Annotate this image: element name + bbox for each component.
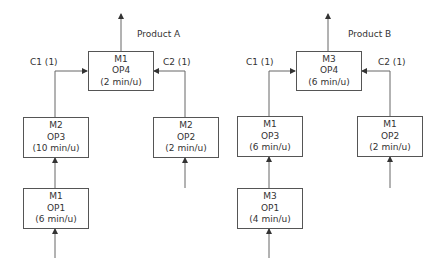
time: (6 min/u) — [35, 214, 76, 226]
product-a-op1-box: M1 OP1 (6 min/u) — [23, 188, 89, 229]
machine: M2 — [179, 120, 193, 132]
operation: OP4 — [112, 65, 130, 77]
operation: OP1 — [261, 203, 279, 215]
product-b-op2-box: M1 OP2 (2 min/u) — [357, 116, 423, 157]
machine: M3 — [263, 191, 277, 203]
time: (6 min/u) — [308, 77, 349, 89]
product-a-op2-box: M2 OP2 (2 min/u) — [153, 117, 219, 158]
time: (10 min/u) — [32, 143, 79, 155]
product-b-op3-box: M1 OP3 (6 min/u) — [237, 116, 303, 157]
operation: OP2 — [381, 131, 399, 143]
product-a-label: Product A — [137, 29, 180, 39]
product-b-c2-label: C2 (1) — [378, 57, 406, 67]
operation: OP4 — [320, 65, 338, 77]
time: (4 min/u) — [249, 214, 290, 226]
operation: OP2 — [177, 132, 195, 144]
time: (2 min/u) — [100, 77, 141, 89]
product-b-op1-box: M3 OP1 (4 min/u) — [237, 188, 303, 229]
machine: M1 — [114, 54, 128, 66]
time: (6 min/u) — [249, 142, 290, 154]
product-a-c1-label: C1 (1) — [30, 57, 58, 67]
time: (2 min/u) — [165, 143, 206, 155]
product-b-c1-arrow — [269, 71, 295, 116]
machine: M2 — [49, 120, 63, 132]
machine: M1 — [263, 119, 277, 131]
operation: OP3 — [261, 131, 279, 143]
product-a-op3-box: M2 OP3 (10 min/u) — [23, 117, 89, 158]
product-b-c1-label: C1 (1) — [246, 57, 274, 67]
product-a-c1-arrow — [55, 71, 87, 117]
machine: M3 — [322, 54, 336, 66]
product-b-c2-arrow — [362, 71, 390, 116]
machine: M1 — [383, 119, 397, 131]
product-a-c2-arrow — [154, 71, 185, 117]
product-b-op4-box: M3 OP4 (6 min/u) — [296, 51, 362, 91]
product-b-label: Product B — [348, 29, 391, 39]
machine: M1 — [49, 191, 63, 203]
time: (2 min/u) — [369, 142, 410, 154]
operation: OP3 — [47, 132, 65, 144]
operation: OP1 — [47, 203, 65, 215]
product-a-op4-box: M1 OP4 (2 min/u) — [88, 51, 154, 91]
product-a-c2-label: C2 (1) — [163, 57, 191, 67]
